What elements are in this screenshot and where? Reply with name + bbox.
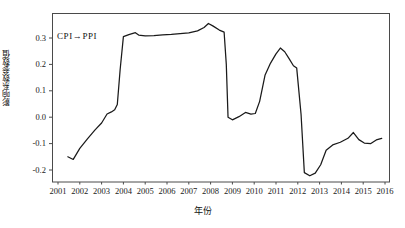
chart-container: 影响系数参数值 年份 CPI→PPI 0.30.20.10.0-0.1-0.2 … <box>0 0 405 228</box>
y-axis-tick-marks <box>49 38 52 170</box>
plot-area <box>0 0 405 228</box>
plot-frame-border <box>53 14 390 183</box>
series-line-cpi-to-ppi <box>68 23 382 175</box>
